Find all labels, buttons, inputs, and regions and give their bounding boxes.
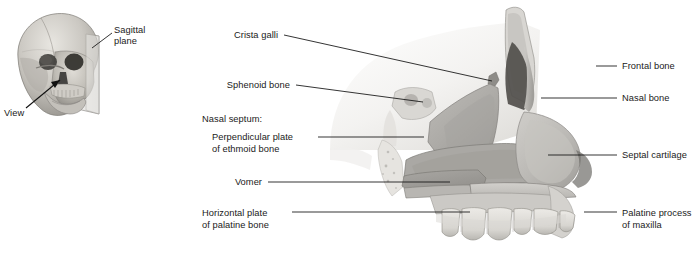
label-frontal-bone: Frontal bone: [622, 61, 675, 71]
label-crista-galli: Crista galli: [234, 30, 278, 40]
label-sagittal-plane-line2: plane: [114, 36, 137, 46]
label-horizontal-plate-line1: Horizontal plate: [202, 208, 267, 218]
label-perpendicular-plate-line1: Perpendicular plate: [212, 132, 293, 142]
sagittal-plane-front-face: [86, 34, 99, 114]
label-palatine-process-line1: Palatine process: [622, 208, 692, 218]
label-nasal-septum-heading: Nasal septum:: [202, 114, 262, 124]
label-sphenoid-bone: Sphenoid bone: [227, 80, 290, 90]
sphenoid-sinus-2: [422, 98, 432, 108]
label-vomer: Vomer: [235, 177, 262, 187]
label-horizontal-plate-line2: of palatine bone: [202, 220, 269, 230]
orbit-right: [65, 54, 84, 71]
label-nasal-bone: Nasal bone: [622, 93, 670, 103]
label-palatine-process-line2: of maxilla: [622, 220, 663, 230]
orbit-left-highlight: [40, 55, 52, 65]
anatomy-figure: Sagittal plane View: [0, 0, 696, 260]
label-septal-cartilage: Septal cartilage: [622, 150, 687, 160]
label-sagittal-plane-line1: Sagittal: [114, 25, 145, 35]
label-perpendicular-plate-line2: of ethmoid bone: [212, 144, 279, 154]
figure-canvas: Sagittal plane View: [0, 0, 696, 260]
label-view: View: [4, 108, 24, 118]
